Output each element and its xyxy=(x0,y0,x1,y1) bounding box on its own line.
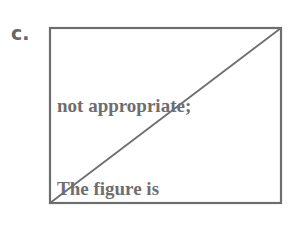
caption-line: not appropriate; xyxy=(57,92,191,120)
caption-line: The figure is xyxy=(57,175,191,203)
annotation-text: not appropriate; The figure is not a squ… xyxy=(57,37,191,213)
